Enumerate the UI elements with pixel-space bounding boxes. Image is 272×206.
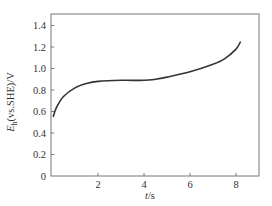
y-tick-label: 0.4 [33,128,47,139]
x-tick-label: 8 [233,179,238,190]
y-axis-label: Eh(vs.SHE)/V [5,72,19,133]
y-tick-label: 1.4 [33,20,47,31]
x-axis-label: t/s [145,190,155,201]
plot-frame [51,14,259,176]
y-tick-label: 0 [41,171,46,182]
y-tick-label: 1.0 [33,63,46,74]
data-line [53,42,240,117]
x-tick-label: 2 [95,179,100,190]
y-tick-label: 0.6 [33,106,46,117]
x-tick-label: 4 [141,179,147,190]
y-tick-label: 1.2 [33,42,46,53]
chart: 00.20.40.60.81.01.21.4 2468 t/s Eh(vs.SH… [0,0,272,206]
x-tick-label: 6 [187,179,192,190]
y-tick-label: 0.2 [33,149,46,160]
y-tick-label: 0.8 [33,85,46,96]
